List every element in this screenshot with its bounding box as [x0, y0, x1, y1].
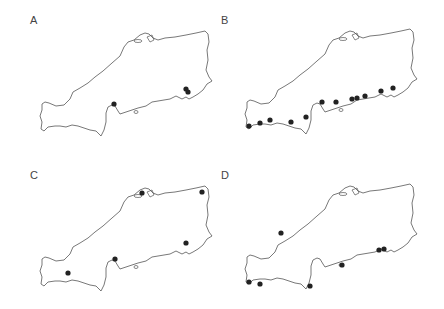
island-outline: [134, 266, 138, 269]
site-dot: [257, 281, 262, 286]
map-svg: [205, 153, 427, 307]
site-dot: [246, 123, 251, 128]
coastline-outline: [40, 31, 212, 136]
site-dot: [112, 256, 117, 261]
map-svg: [0, 155, 222, 309]
site-dot: [65, 270, 70, 275]
coastline-outline: [40, 186, 212, 291]
island-outline: [339, 193, 347, 196]
island-outline: [134, 40, 142, 43]
map-panel-a: A: [0, 0, 222, 154]
site-markers: [111, 86, 190, 106]
site-dot: [185, 89, 190, 94]
map-panel-b: B: [205, 0, 427, 152]
site-dot: [199, 189, 204, 194]
site-dot: [111, 101, 116, 106]
site-dot: [376, 247, 381, 252]
site-dot: [354, 95, 359, 100]
site-markers: [246, 230, 386, 288]
site-dot: [333, 99, 338, 104]
site-dot: [288, 119, 293, 124]
site-dot: [362, 93, 367, 98]
site-dot: [257, 120, 262, 125]
site-dot: [267, 117, 272, 122]
site-dot: [139, 190, 144, 195]
map-panel-d: D: [205, 153, 427, 307]
site-dot: [278, 230, 283, 235]
map-svg: [205, 0, 427, 152]
site-dot: [339, 262, 344, 267]
site-dot: [381, 246, 386, 251]
site-dot: [349, 96, 354, 101]
site-dot: [303, 114, 308, 119]
site-dot: [183, 240, 188, 245]
site-dot: [390, 85, 395, 90]
map-panel-c: C: [0, 155, 222, 309]
site-markers: [246, 85, 395, 128]
site-dot: [378, 88, 383, 93]
site-dot: [307, 283, 312, 288]
map-svg: [0, 0, 222, 154]
island-outline: [339, 109, 343, 112]
site-dot: [319, 99, 324, 104]
island-outline: [134, 111, 138, 114]
island-outline: [339, 38, 347, 41]
site-dot: [246, 279, 251, 284]
coastline-outline: [245, 184, 417, 289]
site-markers: [65, 189, 204, 275]
